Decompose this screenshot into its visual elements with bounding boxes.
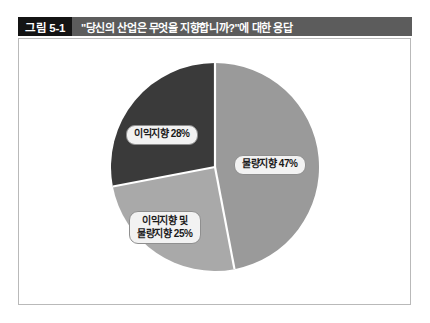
figure-number-badge: 그림 5-1 (18, 17, 72, 36)
figure-caption-bar: 그림 5-1 "당신의 산업은 무엇을 지향합니까?"에 대한 응답 (18, 17, 412, 36)
chart-frame (18, 38, 411, 305)
figure-caption-title: "당신의 산업은 무엇을 지향합니까?"에 대한 응답 (72, 17, 293, 36)
